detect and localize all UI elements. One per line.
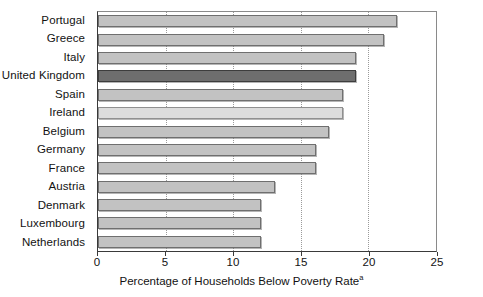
category-label: Austria [0,178,91,197]
bar [98,236,261,248]
bar-row [98,86,436,104]
category-label: Denmark [0,196,91,215]
category-label: Spain [0,85,91,104]
bar-row [98,104,436,122]
category-axis: PortugalGreeceItalyUnited KingdomSpainIr… [0,11,91,252]
value-axis: 0510152025 [97,252,437,274]
bar-row [98,67,436,85]
x-axis-title-superscript: a [359,273,363,282]
category-label: Netherlands [0,233,91,252]
bar [98,70,356,82]
category-label: Italy [0,48,91,67]
bar [98,107,343,119]
bar [98,15,397,27]
bar-row [98,196,436,214]
category-label: Greece [0,30,91,49]
x-tick-label: 25 [431,257,444,269]
bar [98,126,329,138]
bar [98,144,316,156]
x-axis-title-text: Percentage of Households Below Poverty R… [120,275,360,287]
bar-chart: PortugalGreeceItalyUnited KingdomSpainIr… [0,0,483,297]
bar [98,89,343,101]
category-label: Belgium [0,122,91,141]
category-label: United Kingdom [0,67,91,86]
bar [98,181,275,193]
bar-row [98,214,436,232]
bar [98,217,261,229]
bar-row [98,233,436,251]
bar-row [98,178,436,196]
x-tick-label: 10 [227,257,240,269]
bar-row [98,141,436,159]
x-tick-label: 5 [162,257,168,269]
bar [98,52,356,64]
x-tick-label: 0 [94,257,100,269]
bar-row [98,159,436,177]
x-tick-label: 15 [295,257,308,269]
bar-row [98,30,436,48]
bar [98,199,261,211]
bar-series [98,12,436,251]
bar-row [98,49,436,67]
bar-row [98,12,436,30]
category-label: Ireland [0,104,91,123]
category-label: France [0,159,91,178]
bar [98,162,316,174]
x-axis-title: Percentage of Households Below Poverty R… [0,276,483,288]
plot-area [97,11,437,252]
category-label: Germany [0,141,91,160]
bar-row [98,122,436,140]
category-label: Portugal [0,11,91,30]
category-label: Luxembourg [0,215,91,234]
bar [98,34,384,46]
x-tick-label: 20 [363,257,376,269]
